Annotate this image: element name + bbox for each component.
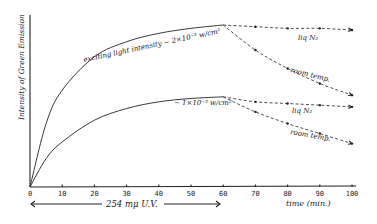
series-line [223,97,352,107]
liq-n2-upper-label: liq N₂ [298,34,318,42]
liq-n2-lower-label: liq N₂ [292,107,312,115]
upper-curve-label: exciting light intensity ~ 2×10⁻³ w/cm² [83,27,222,64]
series-line [223,25,352,95]
data-point [319,27,321,29]
data-point [286,102,288,104]
x-axis-label: time (min.) [286,199,331,208]
uv-label: 254 mμ U.V. [105,199,158,209]
x-tick-label: 10 [58,190,66,198]
series-line [30,97,223,187]
y-axis-label: Intensity of Green Emission [17,14,26,121]
chart: 0102030405060708090100 Intensity of Gree… [0,0,377,224]
data-point [286,122,288,124]
data-point [286,67,288,69]
x-tick-label: 40 [155,190,163,198]
x-tick-label: 20 [90,190,98,198]
data-point [319,104,321,106]
x-tick-label: 70 [251,190,259,198]
x-tick-label: 60 [219,190,227,198]
lower-curve-label: ~ 1×10⁻³ w/cm² [174,99,232,107]
x-tick-label: 100 [346,190,359,198]
data-point [254,111,256,113]
arrowhead-icon [348,92,352,95]
data-point [254,25,256,27]
room-temp-upper-label: room temp. [290,66,332,84]
x-tick-label: 50 [187,190,195,198]
data-point [254,101,256,103]
x-tick-label: 80 [283,190,291,198]
x-axis [30,186,356,187]
x-tick-label: 30 [122,190,130,198]
data-point [286,27,288,29]
x-tick-label: 90 [316,190,324,198]
data-point [319,82,321,84]
arrowhead-icon [348,141,352,144]
x-tick-label: 0 [28,190,32,198]
data-point [254,49,256,51]
